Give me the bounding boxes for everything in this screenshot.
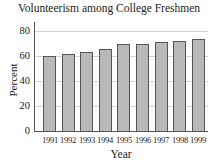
y-tick-label: 80 <box>10 26 30 36</box>
bar-1994 <box>99 49 112 132</box>
y-tick-label: 0 <box>10 126 30 136</box>
y-tick-label: 20 <box>10 101 30 111</box>
bar-1995 <box>117 44 130 132</box>
bar-1992 <box>62 54 75 132</box>
y-axis-line <box>34 22 35 132</box>
bar-1998 <box>173 41 186 131</box>
gridline <box>34 31 208 32</box>
bar-1999 <box>192 39 205 132</box>
x-axis-label: Year <box>34 148 208 160</box>
y-tick-label: 40 <box>10 76 30 86</box>
x-tick-label: 1999 <box>187 135 209 145</box>
bar-1991 <box>43 56 56 131</box>
bar-1997 <box>155 42 168 131</box>
chart-title: Volunteerism among College Freshmen <box>0 2 210 14</box>
y-tick-label: 60 <box>10 51 30 61</box>
x-axis-line <box>34 131 208 132</box>
bar-1993 <box>80 52 93 131</box>
bar-1996 <box>136 44 149 132</box>
